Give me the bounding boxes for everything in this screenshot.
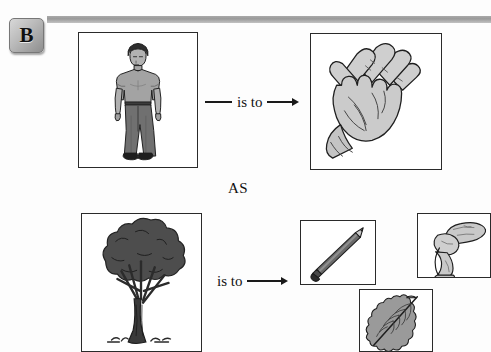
relation-arrow-right <box>267 98 299 106</box>
image-frame-tree <box>81 213 202 352</box>
tree-icon <box>82 214 201 351</box>
answer-option-leg[interactable] <box>417 213 491 278</box>
image-frame-person <box>78 32 198 168</box>
worksheet-page: B <box>0 0 491 352</box>
open-hand-icon <box>311 34 441 169</box>
section-badge: B <box>9 18 44 53</box>
relation-arrow-right-bottom <box>247 277 288 285</box>
image-frame-hand <box>310 33 442 170</box>
section-badge-letter: B <box>19 25 33 46</box>
header-rule <box>47 16 491 23</box>
as-label: AS <box>228 180 248 197</box>
relation-is-to-bottom: is to <box>212 270 288 292</box>
pencil-icon <box>301 221 375 284</box>
bent-leg-icon <box>418 214 490 277</box>
leaf-icon <box>360 290 432 351</box>
relation-line-left <box>205 101 232 103</box>
relation-is-to-top: is to <box>205 91 299 113</box>
person-standing-icon <box>79 33 197 167</box>
answer-option-leaf[interactable] <box>359 289 433 352</box>
answer-option-pencil[interactable] <box>300 220 376 285</box>
relation-label-bottom: is to <box>212 274 247 289</box>
relation-label: is to <box>232 95 267 110</box>
